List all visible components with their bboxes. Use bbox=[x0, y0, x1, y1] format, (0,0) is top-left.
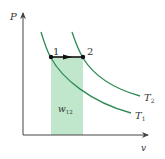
t2-label: T2 bbox=[144, 92, 155, 104]
point-2-label: 2 bbox=[87, 46, 93, 57]
y-axis-label: P bbox=[9, 11, 17, 22]
work-area bbox=[51, 57, 83, 135]
pv-diagram: P v 1 2 T2 T1 w12 bbox=[0, 0, 165, 159]
point-1-label: 1 bbox=[53, 46, 59, 57]
state-point-2 bbox=[81, 55, 85, 59]
t1-label: T1 bbox=[135, 110, 146, 122]
x-axis-label: v bbox=[141, 143, 146, 153]
